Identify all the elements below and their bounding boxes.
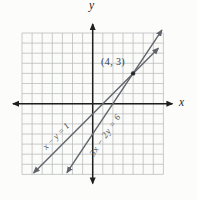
- y-axis-label: y: [89, 0, 94, 11]
- coordinate-plane: [0, 0, 197, 200]
- x-axis-label: x: [179, 96, 184, 108]
- intersection-point-label: (4, 3): [101, 56, 125, 68]
- intersection-dot: [131, 71, 135, 75]
- graph-figure: y x (4, 3) x − y = 1 3x − 2y = 6: [0, 0, 197, 200]
